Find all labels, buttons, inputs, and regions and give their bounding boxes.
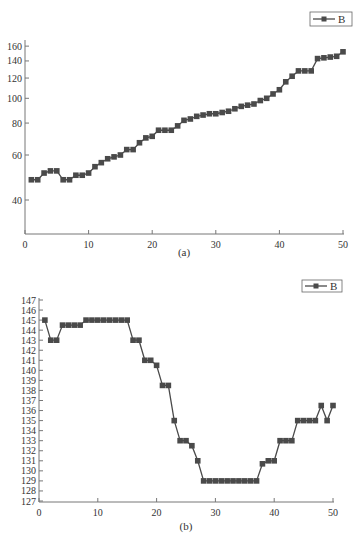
data-marker bbox=[42, 317, 48, 323]
data-marker bbox=[95, 317, 101, 323]
data-marker bbox=[124, 317, 130, 323]
data-marker bbox=[29, 177, 35, 183]
data-marker bbox=[219, 110, 225, 116]
data-marker bbox=[200, 112, 206, 118]
data-marker bbox=[321, 55, 327, 61]
legend-marker-icon bbox=[322, 17, 327, 22]
data-marker bbox=[324, 418, 330, 424]
x-tick-label: 10 bbox=[84, 239, 94, 250]
chart-canvas: 40608010012014016001020304050(a)B 127128… bbox=[0, 0, 364, 540]
data-marker bbox=[330, 403, 336, 409]
data-marker bbox=[181, 118, 187, 124]
data-marker bbox=[177, 438, 183, 444]
y-tick-label: 147 bbox=[21, 295, 36, 306]
data-marker bbox=[162, 127, 168, 133]
y-tick-label: 145 bbox=[21, 315, 36, 326]
data-marker bbox=[137, 140, 143, 146]
chart-caption: (b) bbox=[180, 520, 193, 533]
data-marker bbox=[154, 363, 160, 369]
y-tick-label: 129 bbox=[21, 475, 36, 486]
chart-a: 40608010012014016001020304050(a)B bbox=[7, 12, 352, 259]
y-tick-label: 143 bbox=[21, 335, 36, 346]
data-marker bbox=[224, 478, 230, 484]
data-marker bbox=[48, 168, 54, 174]
y-tick-label: 141 bbox=[21, 355, 36, 366]
data-marker bbox=[194, 114, 200, 120]
data-marker bbox=[118, 152, 124, 158]
y-tick-label: 120 bbox=[7, 73, 22, 84]
y-tick-label: 140 bbox=[21, 365, 36, 376]
data-marker bbox=[248, 478, 254, 484]
x-tick-label: 50 bbox=[338, 239, 348, 250]
data-marker bbox=[136, 337, 142, 343]
x-tick-label: 30 bbox=[210, 507, 220, 518]
data-marker bbox=[289, 73, 295, 79]
y-tick-label: 140 bbox=[7, 55, 22, 66]
data-marker bbox=[86, 170, 92, 176]
data-marker bbox=[175, 123, 181, 129]
data-marker bbox=[60, 177, 66, 183]
data-marker bbox=[171, 418, 177, 424]
data-marker bbox=[270, 91, 276, 97]
data-marker bbox=[251, 101, 257, 107]
data-marker bbox=[277, 438, 283, 444]
data-marker bbox=[340, 49, 346, 55]
data-marker bbox=[213, 478, 219, 484]
data-marker bbox=[183, 438, 189, 444]
data-marker bbox=[277, 87, 283, 93]
data-marker bbox=[113, 317, 119, 323]
data-marker bbox=[79, 172, 85, 178]
data-marker bbox=[264, 95, 270, 101]
data-marker bbox=[258, 98, 264, 104]
data-marker bbox=[124, 147, 130, 153]
legend-marker-icon bbox=[314, 284, 319, 289]
data-marker bbox=[283, 438, 289, 444]
x-tick-label: 10 bbox=[93, 507, 103, 518]
y-tick-label: 127 bbox=[21, 496, 36, 507]
data-marker bbox=[254, 478, 260, 484]
data-marker bbox=[130, 337, 136, 343]
data-marker bbox=[295, 418, 301, 424]
y-tick-label: 137 bbox=[21, 395, 36, 406]
y-tick-label: 144 bbox=[21, 325, 36, 336]
x-tick-label: 0 bbox=[37, 507, 42, 518]
data-marker bbox=[66, 322, 72, 328]
x-tick-label: 0 bbox=[23, 239, 28, 250]
data-marker bbox=[245, 102, 251, 108]
data-marker bbox=[232, 106, 238, 112]
data-marker bbox=[111, 154, 117, 160]
y-tick-label: 131 bbox=[21, 455, 36, 466]
y-tick-label: 134 bbox=[21, 425, 36, 436]
x-tick-label: 50 bbox=[328, 507, 338, 518]
data-marker bbox=[207, 478, 213, 484]
data-marker bbox=[296, 68, 302, 74]
y-tick-label: 133 bbox=[21, 435, 36, 446]
x-tick-label: 40 bbox=[274, 239, 284, 250]
data-marker bbox=[107, 317, 113, 323]
data-marker bbox=[142, 358, 148, 364]
data-marker bbox=[226, 108, 232, 114]
y-tick-label: 128 bbox=[21, 485, 36, 496]
data-marker bbox=[315, 56, 321, 62]
y-tick-label: 100 bbox=[7, 93, 22, 104]
data-marker bbox=[318, 403, 324, 409]
data-marker bbox=[48, 337, 54, 343]
data-marker bbox=[99, 160, 105, 166]
data-marker bbox=[230, 478, 236, 484]
data-marker bbox=[213, 111, 219, 117]
chart-caption: (a) bbox=[178, 246, 191, 259]
x-tick-label: 20 bbox=[152, 507, 162, 518]
data-marker bbox=[160, 383, 166, 389]
data-marker bbox=[207, 111, 213, 117]
data-marker bbox=[201, 478, 207, 484]
legend-label: B bbox=[338, 13, 345, 25]
y-tick-label: 40 bbox=[12, 195, 22, 206]
legend-label: B bbox=[330, 280, 337, 292]
data-marker bbox=[105, 156, 111, 162]
data-marker bbox=[271, 458, 277, 464]
data-marker bbox=[67, 177, 73, 183]
data-marker bbox=[73, 172, 79, 178]
y-tick-label: 139 bbox=[21, 375, 36, 386]
data-marker bbox=[119, 317, 125, 323]
x-tick-label: 20 bbox=[147, 239, 157, 250]
